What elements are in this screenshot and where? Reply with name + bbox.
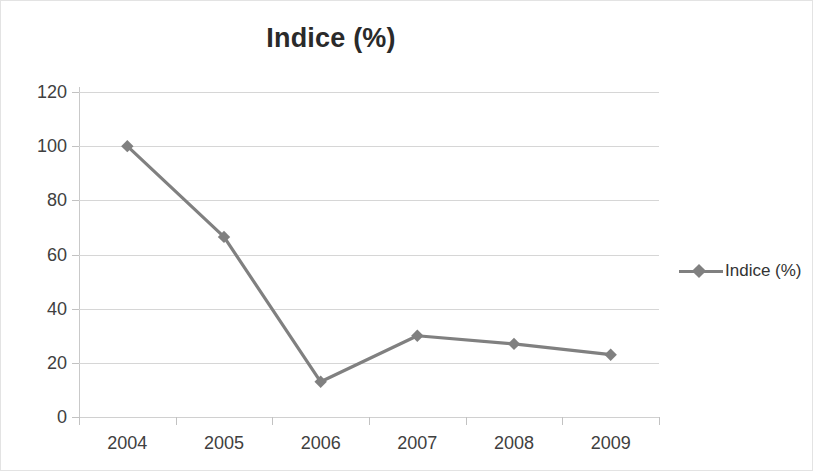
chart-container: Indice (%) 020406080100120 Indice (%) 20… (0, 0, 813, 471)
y-axis-tick (72, 255, 79, 256)
legend-marker-icon (679, 263, 723, 279)
gridline (79, 146, 659, 147)
x-axis-tick (79, 417, 80, 425)
plot-area (79, 92, 659, 417)
gridline (79, 92, 659, 93)
x-axis-tick (176, 417, 177, 425)
x-axis-tick-label: 2009 (571, 433, 651, 454)
x-axis-tick-label: 2004 (87, 433, 167, 454)
y-axis-tick-label: 80 (15, 190, 67, 211)
y-axis-tick-label: 60 (15, 244, 67, 265)
x-axis-tick (272, 417, 273, 425)
y-axis-tick-label: 0 (15, 407, 67, 428)
gridline (79, 363, 659, 364)
x-axis-tick-label: 2006 (281, 433, 361, 454)
x-axis-tick (466, 417, 467, 425)
y-axis-tick (72, 363, 79, 364)
y-axis-tick (72, 200, 79, 201)
x-axis-tick-label: 2007 (377, 433, 457, 454)
x-axis-tick (369, 417, 370, 425)
y-axis-tick-label: 120 (15, 82, 67, 103)
chart-title: Indice (%) (1, 23, 661, 54)
y-axis-tick (72, 309, 79, 310)
gridline (79, 309, 659, 310)
legend-label: Indice (%) (725, 261, 802, 281)
y-axis-tick-label: 40 (15, 298, 67, 319)
y-axis-tick (72, 92, 79, 93)
x-axis-tick (659, 417, 660, 425)
x-axis-tick-label: 2008 (474, 433, 554, 454)
y-axis-labels: 020406080100120 (11, 1, 67, 471)
gridline (79, 200, 659, 201)
y-axis-tick (72, 417, 79, 418)
x-axis-tick (562, 417, 563, 425)
chart-legend[interactable]: Indice (%) (679, 259, 802, 283)
y-axis-tick-label: 100 (15, 136, 67, 157)
gridline (79, 255, 659, 256)
y-axis-tick-label: 20 (15, 352, 67, 373)
x-axis-tick-label: 2005 (184, 433, 264, 454)
y-axis-tick (72, 146, 79, 147)
